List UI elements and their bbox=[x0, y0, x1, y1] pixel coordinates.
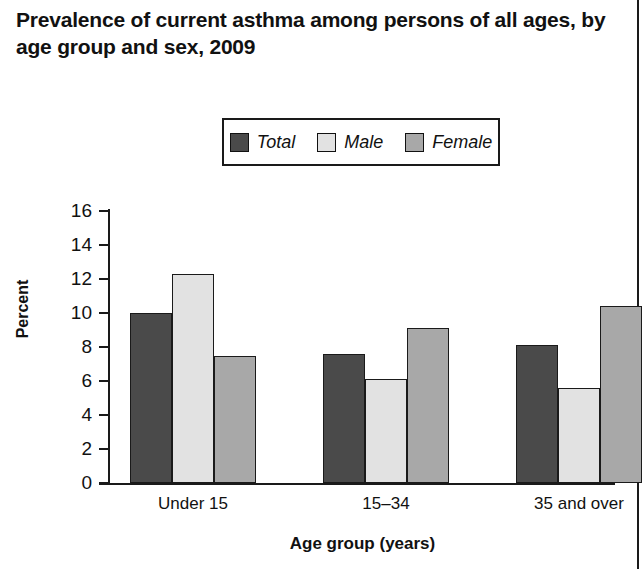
bar-male-group-3 bbox=[558, 388, 600, 483]
bar-male-group-2 bbox=[365, 379, 407, 483]
bar-total-group-2 bbox=[323, 354, 365, 483]
legend-item-male: Male bbox=[317, 132, 383, 153]
legend-item-total: Total bbox=[230, 132, 295, 153]
y-tick-label-10: 10 bbox=[52, 302, 92, 324]
y-tick-label-8: 8 bbox=[52, 336, 92, 358]
page-right-rule bbox=[637, 0, 639, 569]
page-title: Prevalence of current asthma among perso… bbox=[16, 6, 616, 61]
chart-figure: Prevalence of current asthma among perso… bbox=[0, 0, 643, 569]
legend-label-female: Female bbox=[432, 132, 492, 153]
y-tick-8 bbox=[99, 346, 110, 348]
y-tick-12 bbox=[99, 278, 110, 280]
legend-swatch-male bbox=[317, 133, 336, 152]
x-axis-title: Age group (years) bbox=[110, 534, 615, 554]
plot-area bbox=[110, 211, 615, 483]
y-tick-label-16: 16 bbox=[52, 200, 92, 222]
y-tick-14 bbox=[99, 244, 110, 246]
bar-female-group-1 bbox=[214, 356, 256, 484]
y-tick-6 bbox=[99, 380, 110, 382]
legend-label-total: Total bbox=[257, 132, 295, 153]
x-axis-label-group-2: 15–34 bbox=[306, 494, 466, 514]
legend-item-female: Female bbox=[405, 132, 492, 153]
y-tick-0 bbox=[99, 482, 110, 484]
legend-swatch-total bbox=[230, 133, 249, 152]
chart-legend: Total Male Female bbox=[222, 118, 500, 166]
y-tick-2 bbox=[99, 448, 110, 450]
bar-female-group-2 bbox=[407, 328, 449, 483]
bar-male-group-1 bbox=[172, 274, 214, 483]
bar-total-group-3 bbox=[516, 345, 558, 483]
x-axis-label-group-1: Under 15 bbox=[113, 494, 273, 514]
y-tick-label-12: 12 bbox=[52, 268, 92, 290]
legend-label-male: Male bbox=[344, 132, 383, 153]
bar-female-group-3 bbox=[600, 306, 642, 483]
legend-swatch-female bbox=[405, 133, 424, 152]
y-tick-label-4: 4 bbox=[52, 404, 92, 426]
bar-total-group-1 bbox=[130, 313, 172, 483]
x-axis-line bbox=[99, 483, 615, 485]
y-tick-label-0: 0 bbox=[52, 472, 92, 494]
y-tick-10 bbox=[99, 312, 110, 314]
y-tick-label-2: 2 bbox=[52, 438, 92, 460]
y-tick-4 bbox=[99, 414, 110, 416]
y-axis-title: Percent bbox=[14, 249, 32, 369]
y-tick-16 bbox=[99, 210, 110, 212]
y-tick-label-14: 14 bbox=[52, 234, 92, 256]
y-tick-label-6: 6 bbox=[52, 370, 92, 392]
x-axis-label-group-3: 35 and over bbox=[499, 494, 643, 514]
